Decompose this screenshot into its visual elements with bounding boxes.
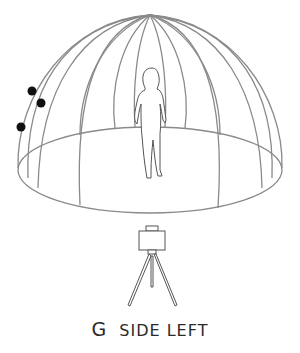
dome-rib: [150, 15, 262, 188]
tripod-head: [148, 250, 156, 254]
tripod-leg-center: [151, 256, 153, 287]
diagram-caption: GSIDE LEFT: [0, 318, 300, 348]
dome-rib: [38, 15, 150, 188]
dome-diagram: [0, 0, 300, 353]
dome-rib: [150, 15, 272, 178]
camera-tripod: [128, 226, 177, 306]
camera-top: [146, 226, 158, 231]
marker-dot: [28, 87, 37, 96]
figure-silhouette: [135, 68, 166, 178]
human-figure: [135, 68, 166, 178]
dome-rib: [28, 15, 150, 178]
caption-label: SIDE LEFT: [119, 321, 208, 340]
marker-dot: [17, 123, 26, 132]
camera-body: [139, 231, 165, 250]
caption-letter: G: [92, 318, 108, 340]
tripod-leg-right: [154, 254, 177, 306]
marker-dot: [37, 99, 46, 108]
tripod-leg-left: [128, 254, 151, 306]
